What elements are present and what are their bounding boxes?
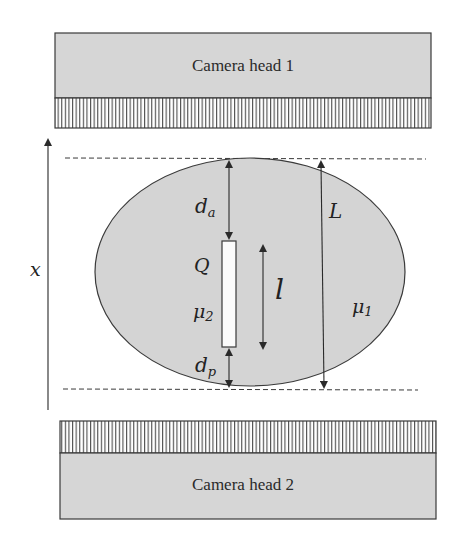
collimator-1 <box>55 98 431 128</box>
L-label: L <box>328 199 342 223</box>
q-label: Q <box>194 254 210 276</box>
bottom-boundary-line <box>63 389 418 390</box>
l-label: l <box>275 273 284 306</box>
camera-head-1: Camera head 1 <box>55 33 431 128</box>
camera-head-2: Camera head 2 <box>60 421 436 519</box>
patient-ellipse <box>95 158 405 386</box>
camera-geometry-diagram: Camera head 1 x da dp Q μ2 l L μ1 Camera… <box>0 0 463 545</box>
collimator-2 <box>60 421 436 453</box>
source-region <box>222 241 236 347</box>
camera-head-1-label: Camera head 1 <box>192 56 294 75</box>
x-axis: x <box>30 142 48 410</box>
camera-head-2-label: Camera head 2 <box>192 475 294 494</box>
x-axis-label: x <box>30 258 41 280</box>
